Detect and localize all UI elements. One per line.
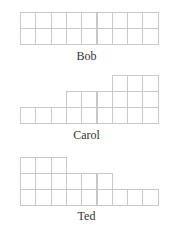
grid-cell <box>81 12 97 29</box>
grid-cell <box>81 107 97 124</box>
grid-cell <box>20 28 36 45</box>
grid-cell <box>127 75 143 92</box>
grid-cell <box>142 12 158 29</box>
grid-cell <box>127 91 143 108</box>
grid-cell <box>51 189 67 206</box>
grid-cell <box>66 91 82 108</box>
diagram-label: Bob <box>0 49 173 64</box>
grid-cell <box>112 107 128 124</box>
grid-cell <box>66 12 82 29</box>
grid-cell <box>81 173 97 190</box>
grid-cell <box>112 189 128 206</box>
grid-cell <box>142 189 158 206</box>
grid-cell <box>97 107 113 124</box>
grid-cell <box>81 28 97 45</box>
grid-cell <box>97 189 113 206</box>
grid-cell <box>142 75 158 92</box>
grid-cell <box>66 173 82 190</box>
grid-cell <box>35 157 51 174</box>
diagram-label: Carol <box>0 128 173 143</box>
grid-cell <box>35 12 51 29</box>
grid-cell <box>66 107 82 124</box>
grid-cell <box>112 91 128 108</box>
grid-cell <box>35 173 51 190</box>
grid-cell <box>127 12 143 29</box>
grid-cell <box>112 12 128 29</box>
grid-cell <box>127 189 143 206</box>
grid-cell <box>35 189 51 206</box>
grid-cell <box>20 157 36 174</box>
grid-cell <box>97 12 113 29</box>
grid-cell <box>142 91 158 108</box>
grid-cell <box>51 12 67 29</box>
grid-cell <box>66 189 82 206</box>
grid-cell <box>112 75 128 92</box>
grid-cell <box>97 28 113 45</box>
diagram-label: Ted <box>0 209 173 224</box>
grid-cell <box>66 28 82 45</box>
grid-cell <box>127 107 143 124</box>
grid-cell <box>142 28 158 45</box>
grid-cell <box>51 173 67 190</box>
grid-cell <box>35 107 51 124</box>
grid-cell <box>81 189 97 206</box>
grid-cell <box>51 107 67 124</box>
grid-cell <box>35 28 51 45</box>
grid-cell <box>20 173 36 190</box>
grid-cell <box>127 28 143 45</box>
grid-cell <box>97 91 113 108</box>
grid-cell <box>51 157 67 174</box>
grid-cell <box>81 91 97 108</box>
grid-cell <box>51 28 67 45</box>
grid-cell <box>97 173 113 190</box>
grid-cell <box>20 189 36 206</box>
grid-cell <box>112 28 128 45</box>
grid-cell <box>20 12 36 29</box>
grid-cell <box>20 107 36 124</box>
grid-cell <box>142 107 158 124</box>
